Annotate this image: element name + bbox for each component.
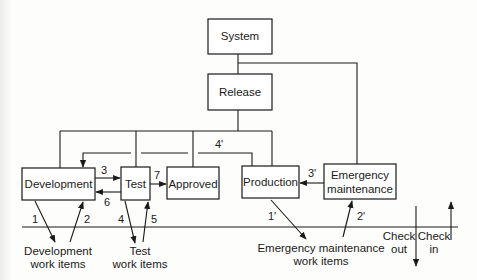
label-development-work-items: Development work items [24,245,93,270]
svg-text:3: 3 [101,164,107,176]
label-emergency-work-items: Emergency maintenance work items [257,242,384,267]
svg-text:3': 3' [308,167,316,179]
svg-text:Development: Development [24,245,93,257]
svg-text:1: 1 [32,213,38,225]
edge-2: 2 [70,202,90,242]
node-release[interactable]: Release [208,74,272,110]
edge-label-4prime: 4' [215,138,223,150]
svg-text:2: 2 [84,213,90,225]
svg-text:Release: Release [219,86,261,98]
edge-4prime: 4' [83,138,252,167]
svg-text:Development: Development [25,178,94,190]
legend-check-out: Check out [383,206,416,266]
svg-text:work items: work items [293,255,349,267]
svg-text:2': 2' [357,210,365,222]
svg-text:work items: work items [30,258,86,270]
node-emergency-maintenance[interactable]: Emergency maintenance [324,164,396,199]
legend-check-in: Check in [418,202,451,255]
node-test[interactable]: Test [121,167,150,200]
svg-text:Test: Test [125,178,147,190]
svg-text:Production: Production [243,176,298,188]
edge-2prime: 2' [343,201,365,237]
edge-3prime: 3' [300,167,324,183]
diagram-canvas: 4' System Release Development Test Appro… [0,0,477,280]
node-development[interactable]: Development [22,168,95,200]
svg-text:Approved: Approved [168,178,217,190]
edge-3: 3 [95,164,120,178]
svg-text:System: System [221,30,259,42]
label-test-work-items: Test work items [112,245,168,270]
svg-text:Test: Test [129,245,151,257]
edge-1prime: 1' [268,200,306,239]
node-system[interactable]: System [208,19,272,54]
edge-6: 6 [96,192,121,208]
node-production[interactable]: Production [242,166,299,198]
svg-text:Emergency: Emergency [331,169,389,181]
node-approved[interactable]: Approved [167,167,219,199]
edge-1: 1 [32,201,55,242]
svg-text:Emergency maintenance: Emergency maintenance [257,242,384,254]
svg-text:Check: Check [383,230,416,242]
svg-text:6: 6 [104,196,110,208]
svg-text:4: 4 [118,213,124,225]
svg-text:in: in [430,243,439,255]
edge-5: 5 [143,202,157,242]
svg-text:maintenance: maintenance [327,183,393,195]
edge-7: 7 [150,169,166,184]
edge-4: 4 [118,201,135,243]
svg-text:7: 7 [154,169,160,181]
svg-text:out: out [391,243,408,255]
hierarchy-connectors [60,54,357,168]
svg-text:5: 5 [151,213,157,225]
svg-text:work items: work items [112,258,168,270]
svg-text:1': 1' [268,210,276,222]
workflow-diagram: 4' System Release Development Test Appro… [0,0,477,280]
svg-text:Check: Check [418,230,451,242]
